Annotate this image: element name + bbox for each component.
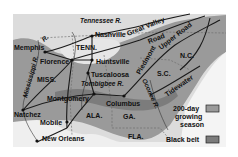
legend-swatch-black-belt (206, 136, 219, 143)
state-fla: FLA. (128, 133, 144, 140)
historical-map: Memphis Nashville Florence Huntsville Tu… (0, 0, 238, 157)
city-dot-montgomery (92, 92, 95, 95)
state-miss: MISS. (37, 76, 56, 83)
label-florence: Florence (40, 58, 69, 65)
label-tuscaloosa: Tuscaloosa (91, 71, 129, 78)
city-dot-mobile (65, 120, 68, 123)
label-columbus: Columbus (106, 100, 140, 107)
label-nashville: Nashville (95, 31, 126, 38)
city-dot-nashville (90, 34, 93, 37)
legend-growing-season-line2: growing (175, 113, 202, 121)
city-dot-huntsville (90, 58, 93, 61)
state-nc: N.C. (180, 52, 194, 59)
label-huntsville: Huntsville (96, 58, 130, 65)
city-dot-tuscaloosa (86, 71, 89, 74)
legend-swatch-growing-season (206, 105, 219, 112)
city-dot-new-orleans (35, 139, 38, 142)
river-tennessee-label: Tennessee R. (80, 17, 122, 24)
state-ala: ALA. (86, 112, 102, 119)
label-mobile: Mobile (40, 119, 62, 126)
legend-growing-season-line1: 200-day (173, 105, 199, 113)
state-sc: S.C. (157, 70, 171, 77)
label-memphis: Memphis (14, 44, 44, 52)
legend-growing-season-line3: season (180, 121, 204, 128)
city-dot-florence (70, 58, 73, 61)
label-montgomery: Montgomery (47, 95, 89, 103)
label-new-orleans: New Orleans (42, 135, 85, 142)
legend-black-belt-label: Black belt (166, 136, 200, 143)
map-canvas: Memphis Nashville Florence Huntsville Tu… (0, 0, 238, 157)
city-dot-columbus (122, 94, 125, 97)
state-tenn: TENN. (76, 44, 97, 51)
river-tombigbee-label: Tombigbee R. (81, 80, 124, 88)
state-ga: GA. (123, 113, 136, 120)
label-natchez: Natchez (14, 111, 41, 118)
